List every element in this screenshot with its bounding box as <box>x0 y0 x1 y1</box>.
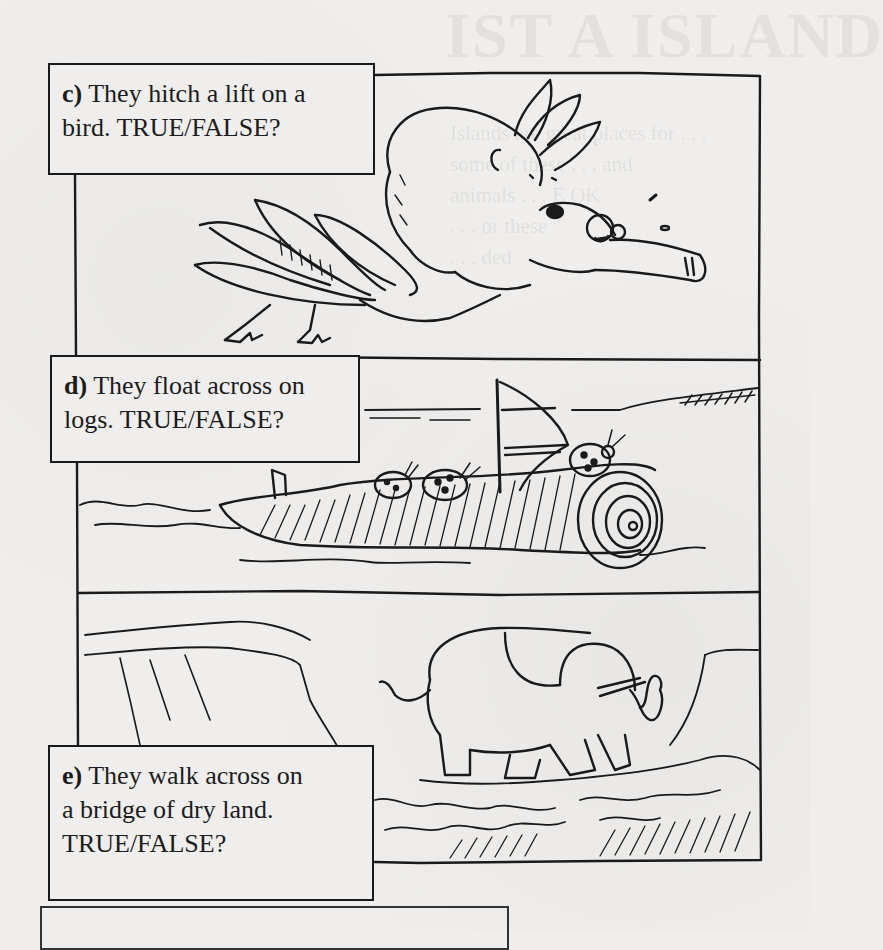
ladybird-icon <box>423 463 480 500</box>
caption-text: TRUE/FALSE? <box>62 829 226 858</box>
caption-c: c) They hitch a lift on a bird. TRUE/FAL… <box>48 63 375 175</box>
caption-letter: d) <box>64 371 87 400</box>
caption-e: e) They walk across on a bridge of dry l… <box>48 745 374 901</box>
caption-text: They hitch a lift on a <box>82 79 305 108</box>
caption-text: They float across on <box>87 371 305 400</box>
caption-text: a bridge of dry land. <box>62 795 274 824</box>
ladybird-icon <box>570 430 625 476</box>
elephant-ear <box>505 633 560 686</box>
panel-divider-d-e <box>78 591 760 595</box>
caption-d: d) They float across on logs. TRUE/FALSE… <box>50 355 360 463</box>
caption-text: bird. TRUE/FALSE? <box>62 113 281 142</box>
caption-letter: c) <box>62 79 82 108</box>
caption-letter: e) <box>62 761 82 790</box>
caption-text: They walk across on <box>82 761 302 790</box>
bottom-text-box <box>40 906 509 950</box>
caption-text: logs. TRUE/FALSE? <box>64 405 284 434</box>
